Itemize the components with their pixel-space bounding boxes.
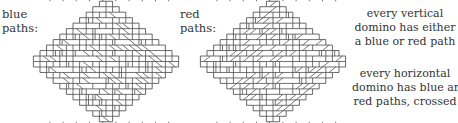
- horizontal-caption-line-2: domino has blue and: [352, 81, 458, 95]
- horizontal-caption-line-3: red paths, crossed: [352, 95, 458, 109]
- vertical-caption-line-2: domino has either: [352, 21, 458, 35]
- horizontal-domino-caption: every horizontal domino has blue and red…: [352, 67, 458, 109]
- horizontal-caption-line-1: every horizontal: [352, 67, 458, 81]
- vertical-domino-caption: every vertical domino has either a blue …: [352, 7, 458, 49]
- vertical-caption-line-3: a blue or red path: [352, 35, 458, 49]
- vertical-caption-line-1: every vertical: [352, 7, 458, 21]
